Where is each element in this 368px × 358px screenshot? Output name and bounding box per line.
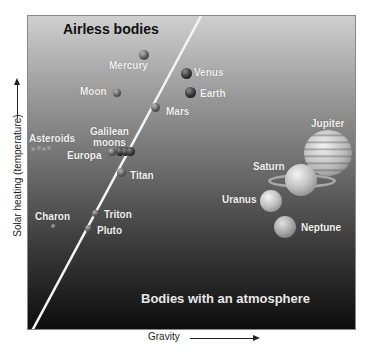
pluto-icon bbox=[85, 225, 92, 232]
label-asteroids: Asteroids bbox=[29, 133, 75, 144]
mercury-icon bbox=[139, 50, 149, 60]
neptune-icon bbox=[274, 216, 296, 238]
label-neptune: Neptune bbox=[301, 222, 341, 233]
x-axis-arrow-icon bbox=[190, 338, 254, 339]
label-charon: Charon bbox=[35, 211, 70, 222]
label-jupiter: Jupiter bbox=[311, 118, 344, 129]
diagram-panel: Airless bodies Bodies with an atmosphere… bbox=[27, 15, 356, 330]
moon-icon bbox=[113, 89, 121, 97]
label-saturn: Saturn bbox=[253, 161, 285, 172]
charon-icon bbox=[51, 224, 56, 229]
region-title-atmosphere: Bodies with an atmosphere bbox=[141, 291, 310, 306]
uranus-icon bbox=[260, 190, 282, 212]
y-axis-label: Solar heating (temperature) bbox=[12, 106, 23, 246]
label-uranus: Uranus bbox=[222, 194, 256, 205]
label-europa: Europa bbox=[67, 150, 101, 161]
label-moon: Moon bbox=[80, 86, 107, 97]
earth-icon bbox=[185, 87, 196, 98]
region-title-airless: Airless bodies bbox=[63, 21, 159, 37]
mars-icon bbox=[151, 103, 160, 112]
label-galilean-line1: Galilean bbox=[90, 126, 129, 137]
label-venus: Venus bbox=[194, 67, 223, 78]
label-triton: Triton bbox=[104, 209, 132, 220]
venus-icon bbox=[181, 68, 192, 79]
label-mercury: Mercury bbox=[109, 60, 148, 71]
x-axis-label: Gravity bbox=[148, 331, 180, 342]
europa-icon bbox=[108, 148, 116, 156]
titan-icon bbox=[117, 168, 126, 177]
label-galilean-moons: Galilean moons bbox=[90, 126, 129, 148]
triton-icon bbox=[92, 210, 99, 217]
saturn-icon bbox=[285, 164, 317, 196]
label-mars: Mars bbox=[166, 106, 189, 117]
label-earth: Earth bbox=[200, 88, 226, 99]
label-pluto: Pluto bbox=[97, 225, 122, 236]
callisto-icon bbox=[126, 147, 135, 156]
label-titan: Titan bbox=[130, 170, 154, 181]
